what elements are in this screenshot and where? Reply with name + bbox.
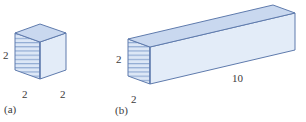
cube-a-depth-label: 2 xyxy=(60,89,66,100)
panel-a-caption: (a) xyxy=(4,104,16,115)
solid-prism-b xyxy=(128,5,295,84)
solid-cube-a xyxy=(15,24,66,79)
prism-b-width-label: 2 xyxy=(131,94,137,105)
cube-a-width-label: 2 xyxy=(22,89,28,100)
prism-b-height-label: 2 xyxy=(116,54,122,65)
panel-b-caption: (b) xyxy=(115,105,128,116)
geometry-figure: 2 2 2 (a) 2 2 10 (b) xyxy=(0,0,306,122)
cube-a-height-label: 2 xyxy=(3,50,9,61)
prism-b-length-label: 10 xyxy=(232,73,243,84)
solids-illustration xyxy=(0,0,306,122)
